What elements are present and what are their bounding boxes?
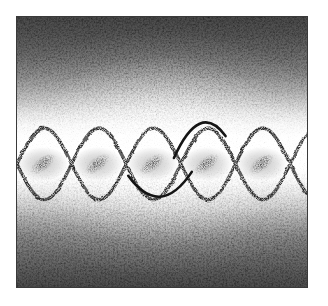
plate-inner (17, 17, 307, 287)
wave-structure (17, 17, 307, 287)
plate-aria-label: Stippled interference wave plate (0, 0, 1, 1)
waves-aria-label: Crossing sinusoid pair forming lens cell… (0, 0, 1, 1)
figure-plate (16, 16, 308, 288)
background-aria-label: Graded speckle background (0, 0, 1, 1)
figure-page: Stippled interference wave plate Crossin… (0, 0, 328, 306)
